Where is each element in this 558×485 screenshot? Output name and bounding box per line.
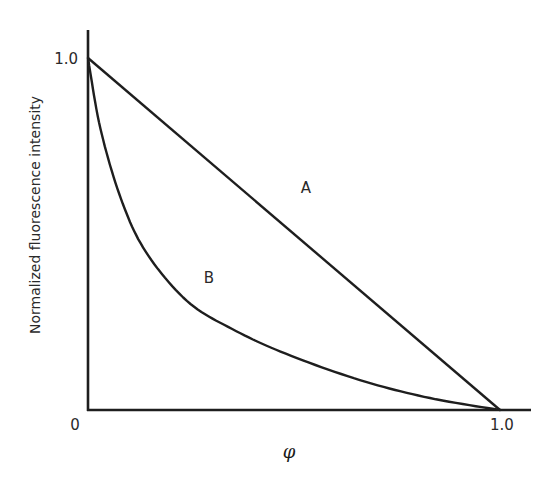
x-axis-title: φ: [283, 441, 296, 462]
y-tick-1: 1.0: [54, 50, 78, 68]
x-tick-0: 0: [70, 416, 80, 434]
y-axis-title: Normalized fluorescence intensity: [27, 96, 43, 334]
x-tick-1: 1.0: [490, 416, 514, 434]
label-b: B: [204, 269, 214, 287]
chart: 1.0 0 1.0 Normalized fluorescence intens…: [0, 0, 558, 485]
label-a: A: [301, 179, 312, 197]
